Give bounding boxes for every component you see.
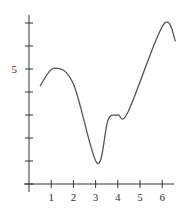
tick-marks [25, 23, 162, 188]
x-tick-label: 2 [71, 191, 77, 203]
x-tick-label: 3 [93, 191, 99, 203]
x-tick-label: 1 [48, 191, 54, 203]
y-tick-label: 5 [12, 63, 18, 75]
x-tick-label: 6 [159, 191, 165, 203]
line-chart: 1234565 [0, 0, 186, 218]
axes [24, 15, 174, 192]
data-curve [40, 22, 175, 164]
x-tick-label: 5 [137, 191, 143, 203]
tick-labels: 1234565 [12, 63, 166, 203]
x-tick-label: 4 [115, 191, 121, 203]
